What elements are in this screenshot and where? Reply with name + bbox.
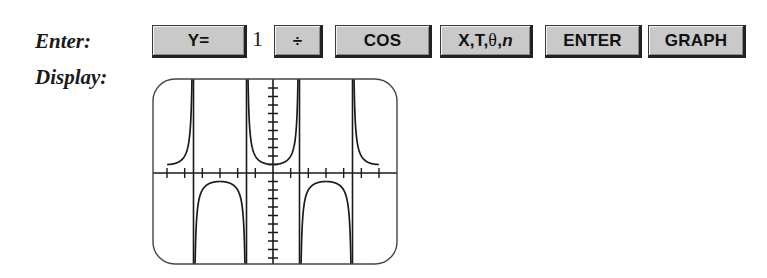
key-xt-n: n bbox=[502, 31, 513, 51]
theta-glyph: θ bbox=[488, 30, 497, 51]
secant-graph bbox=[152, 78, 398, 265]
sec-curve-branch bbox=[353, 78, 379, 165]
display-label: Display: bbox=[35, 67, 107, 88]
key-cos-label: COS bbox=[364, 31, 401, 51]
key-graph-label: GRAPH bbox=[665, 31, 727, 51]
key-y-equals[interactable]: Y= bbox=[152, 25, 247, 58]
plot-area bbox=[152, 78, 398, 265]
key-cos[interactable]: COS bbox=[335, 25, 432, 58]
key-divide[interactable]: ÷ bbox=[274, 25, 323, 58]
key-x-t-theta-n[interactable]: X,T,θ,n bbox=[440, 25, 533, 58]
digit-1: 1 bbox=[252, 26, 263, 52]
sec-curve-branch bbox=[300, 182, 353, 266]
key-xt-prefix: X,T, bbox=[458, 31, 488, 51]
key-divide-label: ÷ bbox=[293, 31, 303, 51]
key-graph[interactable]: GRAPH bbox=[648, 25, 746, 58]
screen-frame bbox=[153, 79, 397, 264]
calculator-display bbox=[152, 78, 398, 265]
key-enter-label: ENTER bbox=[563, 31, 622, 51]
key-y-equals-label: Y= bbox=[188, 31, 210, 51]
enter-label: Enter: bbox=[35, 31, 91, 52]
sec-curve-branch bbox=[167, 78, 193, 165]
key-enter[interactable]: ENTER bbox=[545, 25, 642, 58]
sec-curve-branch bbox=[194, 182, 247, 266]
